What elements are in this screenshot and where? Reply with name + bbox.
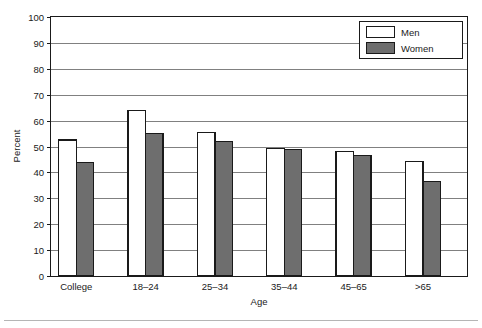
y-axis-tick-label: 60 (33, 116, 44, 127)
legend-swatch-women (367, 43, 395, 54)
y-axis-tick-label: 20 (33, 219, 44, 230)
bar-men-4565 (336, 151, 354, 276)
bar-men-college (59, 140, 77, 276)
chart-canvas: 0102030405060708090100 College18–2425–34… (0, 0, 482, 328)
x-axis-tick-label: College (60, 281, 92, 292)
y-axis-tick-label: 70 (33, 90, 44, 101)
x-axis-tick-label: 35–44 (271, 281, 297, 292)
legend-label-women: Women (401, 43, 434, 54)
y-axis-tick-label: 80 (33, 64, 44, 75)
legend: Men Women (360, 22, 463, 59)
x-axis-title: Age (251, 296, 268, 307)
y-axis-tick-label: 100 (28, 12, 44, 23)
bar-men-3544 (267, 149, 285, 276)
bar-women-3544 (284, 150, 302, 276)
y-axis-tick-label: 30 (33, 193, 44, 204)
y-axis-tick-label: 90 (33, 38, 44, 49)
bar-women-4565 (354, 156, 372, 276)
y-axis-tick-label: 50 (33, 142, 44, 153)
bar-men-65 (406, 161, 424, 276)
bar-women-2534 (215, 142, 233, 276)
y-axis-tick-label: 10 (33, 245, 44, 256)
x-axis-tick-label: 18–24 (132, 281, 158, 292)
x-axis-tick-label: >65 (415, 281, 431, 292)
y-axis-title: Percent (11, 129, 22, 162)
x-axis-tick-label: 45–65 (340, 281, 366, 292)
y-axis-tick-label: 0 (39, 271, 44, 282)
legend-label-men: Men (401, 27, 419, 38)
bar-women-65 (423, 182, 441, 277)
x-axis-tick-label: 25–34 (202, 281, 228, 292)
legend-swatch-men (367, 27, 395, 38)
bar-chart-figure: 0102030405060708090100 College18–2425–34… (0, 0, 482, 328)
y-axis-tick-label: 40 (33, 167, 44, 178)
bar-men-1824 (128, 111, 146, 276)
bar-men-2534 (198, 132, 216, 276)
bar-women-college (76, 163, 94, 276)
bar-women-1824 (146, 134, 164, 276)
